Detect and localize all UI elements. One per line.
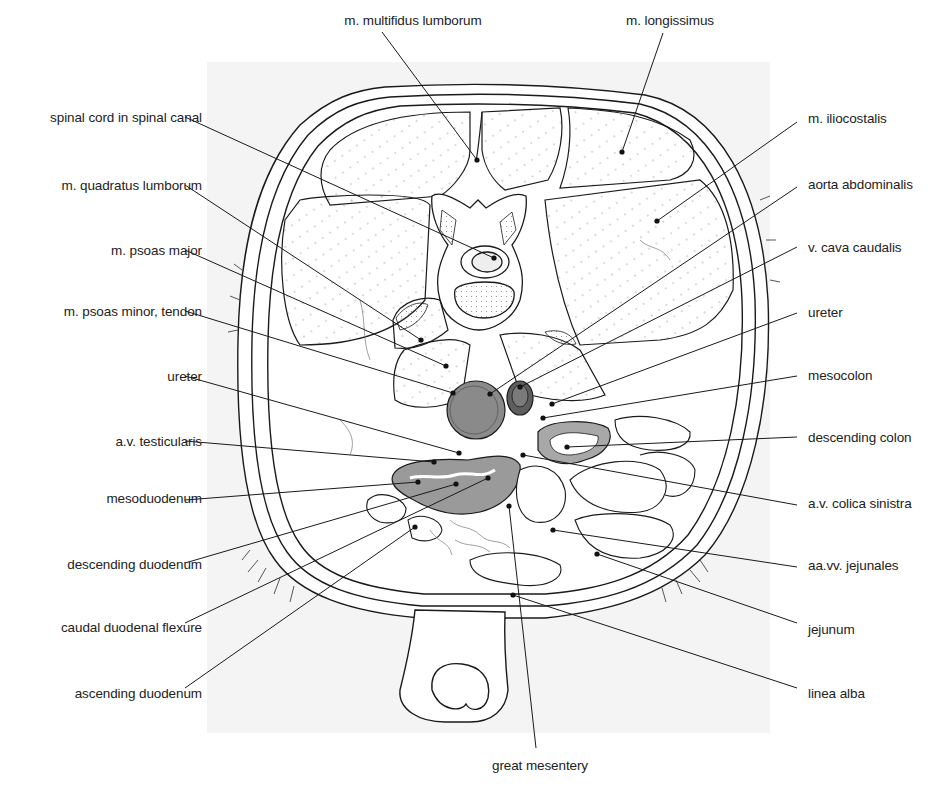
leader-dot-jejunum: [594, 551, 599, 556]
leader-dot-jejunales: [550, 527, 555, 532]
leader-dot-desc-colon: [564, 444, 569, 449]
label-spinal-cord: spinal cord in spinal canal: [50, 110, 202, 126]
label-av-colica-sinistra: a.v. colica sinistra: [808, 496, 912, 512]
leader-dot-aorta: [487, 391, 492, 396]
leader-dot-colica-sinistra: [520, 452, 525, 457]
label-psoas-minor-tendon: m. psoas minor, tendon: [64, 304, 202, 320]
leader-dot-ureter-left: [456, 450, 461, 455]
label-ureter-left: ureter: [167, 369, 202, 385]
label-av-testicularis: a.v. testicularis: [115, 434, 202, 450]
label-ascending-duodenum: ascending duodenum: [75, 686, 202, 702]
leader-dot-mesoduodenum: [415, 479, 420, 484]
leader-dot-caudal-flexure: [485, 475, 490, 480]
label-iliocostalis: m. iliocostalis: [808, 111, 887, 127]
label-caudal-duodenal-flexure: caudal duodenal flexure: [61, 620, 202, 636]
label-mesocolon: mesocolon: [808, 368, 872, 384]
leader-line-linea-alba: [513, 595, 797, 688]
label-linea-alba: linea alba: [808, 686, 865, 702]
leader-dot-linea-alba: [510, 592, 515, 597]
label-quadratus-lumborum: m. quadratus lumborum: [62, 178, 202, 194]
anatomical-figure: m. multifidus lumborum m. longissimus sp…: [0, 0, 929, 786]
leader-dot-mesocolon: [540, 415, 545, 420]
label-aorta-abdominalis: aorta abdominalis: [808, 177, 913, 193]
label-longissimus: m. longissimus: [626, 13, 714, 29]
label-jejunum: jejunum: [808, 622, 855, 638]
leader-dot-desc-duodenum: [453, 481, 458, 486]
leader-dot-quadratus: [418, 337, 423, 342]
leader-dot-iliocostalis: [654, 218, 659, 223]
label-aavv-jejunales: aa.vv. jejunales: [808, 558, 898, 574]
label-vena-cava-caudalis: v. cava caudalis: [808, 240, 901, 256]
leader-dot-psoas-minor: [450, 390, 455, 395]
leader-dot-ureter-right: [549, 401, 554, 406]
leader-dot-longissimus: [619, 149, 624, 154]
label-descending-colon: descending colon: [808, 430, 911, 446]
label-great-mesentery: great mesentery: [492, 758, 588, 774]
label-psoas-major: m. psoas major: [111, 243, 202, 259]
prepuce: [400, 610, 508, 722]
leader-dot-vena-cava: [517, 384, 522, 389]
label-descending-duodenum: descending duodenum: [67, 557, 202, 573]
label-mesoduodenum: mesoduodenum: [106, 491, 202, 507]
label-multifidus-lumborum: m. multifidus lumborum: [344, 13, 481, 29]
leader-dot-great-mesentery: [506, 503, 511, 508]
leader-dot-testicularis: [431, 459, 436, 464]
leader-dot-asc-duodenum: [412, 524, 417, 529]
lumbar-vertebra: [432, 194, 527, 330]
leader-dot-spinal-cord: [491, 255, 496, 260]
leader-dot-psoas-major: [443, 363, 448, 368]
label-ureter-right: ureter: [808, 305, 843, 321]
leader-dot-multifidus: [474, 157, 479, 162]
